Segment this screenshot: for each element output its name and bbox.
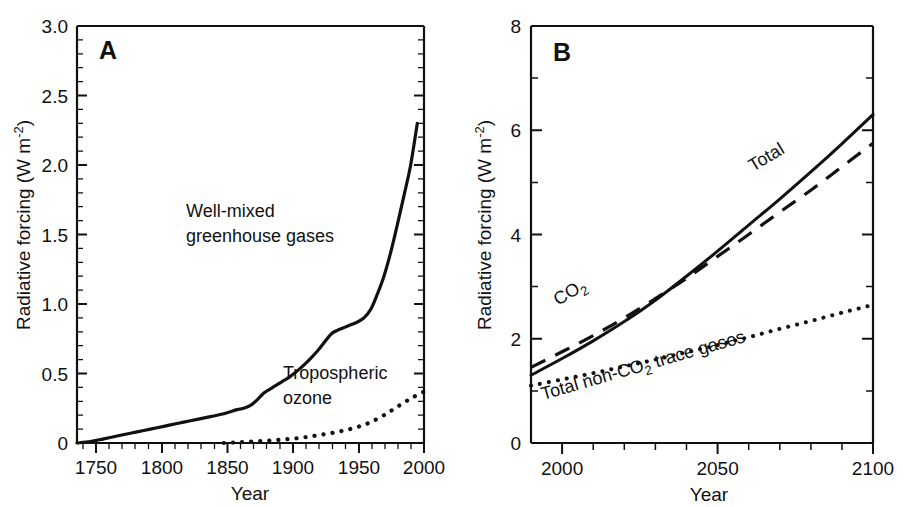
panel-b-y-axis-title: Radiative forcing (W m-2) xyxy=(472,120,495,330)
panel-a-x-axis-title: Year xyxy=(231,483,270,504)
panel-b-y-title-exp: -2 xyxy=(472,126,487,138)
panel-a-letter: A xyxy=(99,36,117,64)
panel-b-y-title-main: Radiative forcing (W m xyxy=(474,138,495,330)
label-tropospheric-ozone-line1: Tropospheric xyxy=(283,363,387,383)
panel-a-y-axis-title: Radiative forcing (W m-2) xyxy=(11,120,34,330)
panel-a-ytick-2: 1.0 xyxy=(42,294,68,315)
panel-b: Radiative forcing (W m-2) 0 2 4 6 xyxy=(453,0,906,507)
panel-b-ytick-0: 0 xyxy=(510,433,521,454)
label-co2: CO2 xyxy=(550,275,592,313)
panel-a-xtick-2000: 2000 xyxy=(403,457,445,478)
label-non-co2-trace-gases: Total non-CO2 trace gases xyxy=(539,326,749,407)
panel-a-plot-area xyxy=(77,123,424,443)
panel-b-xtick-2100: 2100 xyxy=(852,458,894,479)
label-well-mixed-line1: Well-mixed xyxy=(186,201,275,221)
panel-a-xtick-1750: 1750 xyxy=(75,457,117,478)
series-total xyxy=(531,115,873,376)
panel-a-ytick-3: 1.5 xyxy=(42,225,68,246)
figure-root: Radiative forcing (W m-2) 0 0.5 1.0 xyxy=(0,0,906,507)
series-well-mixed-greenhouse-gases xyxy=(77,123,417,443)
panel-b-x-axis-title: Year xyxy=(690,484,729,505)
panel-b-ytick-2: 2 xyxy=(510,329,521,350)
panel-b-svg: Radiative forcing (W m-2) 0 2 4 6 xyxy=(453,0,906,507)
panel-a-ytick-6: 3.0 xyxy=(42,16,68,37)
panel-a-ytick-4: 2.0 xyxy=(42,155,68,176)
panel-a-ytick-0: 0 xyxy=(57,433,68,454)
panel-a-ytick-5: 2.5 xyxy=(42,86,68,107)
panel-a-ytick-1: 0.5 xyxy=(42,364,68,385)
svg-text:Radiative forcing (W m-2): Radiative forcing (W m-2) xyxy=(472,120,495,330)
panel-a-xtick-1900: 1900 xyxy=(272,457,314,478)
panel-a-svg: Radiative forcing (W m-2) 0 0.5 1.0 xyxy=(0,0,453,507)
panel-b-x-ticks: 2000 2050 2100 xyxy=(541,443,894,479)
series-co2 xyxy=(531,143,873,367)
panel-a-x-ticks: 1750 1800 1850 1900 1950 2000 xyxy=(75,443,445,478)
panel-a-y-title-main: Radiative forcing (W m xyxy=(13,138,34,330)
label-nonco2-post: trace gases xyxy=(647,326,747,372)
label-well-mixed-line2: greenhouse gases xyxy=(186,226,334,246)
panel-b-y-title-close: ) xyxy=(474,120,495,126)
label-tropospheric-ozone-line2: ozone xyxy=(283,388,332,408)
panel-a-y-title-exp: -2 xyxy=(11,126,26,138)
panel-a-xtick-1800: 1800 xyxy=(141,457,183,478)
panel-b-annotations: Total CO2 Total non-CO2 trace gases xyxy=(539,139,788,408)
panel-a-y-title-close: ) xyxy=(13,120,34,126)
panel-a-xtick-1950: 1950 xyxy=(338,457,380,478)
panel-b-ytick-8: 8 xyxy=(510,16,521,37)
panel-a-annotations: Well-mixed greenhouse gases Tropospheric… xyxy=(186,201,387,408)
panel-b-xtick-2050: 2050 xyxy=(696,458,738,479)
panel-b-ytick-6: 6 xyxy=(510,120,521,141)
label-total: Total xyxy=(745,139,788,176)
panel-b-xtick-2000: 2000 xyxy=(541,458,583,479)
panel-b-letter: B xyxy=(553,38,571,66)
panel-b-ytick-4: 4 xyxy=(510,225,521,246)
panel-a-xtick-1850: 1850 xyxy=(206,457,248,478)
panel-a: Radiative forcing (W m-2) 0 0.5 1.0 xyxy=(0,0,453,507)
label-co2-main: CO xyxy=(550,278,583,309)
svg-text:Radiative forcing (W m-2): Radiative forcing (W m-2) xyxy=(11,120,34,330)
